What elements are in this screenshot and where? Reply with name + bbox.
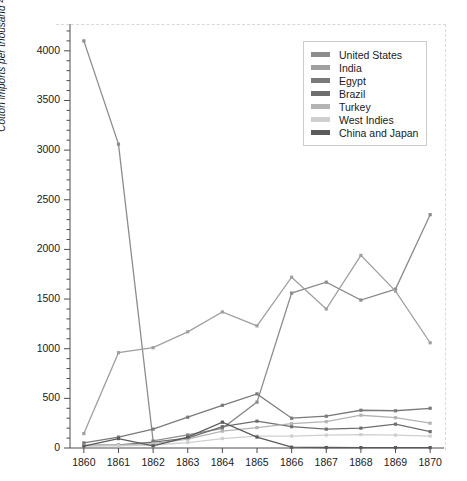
- legend-label: India: [339, 62, 362, 74]
- data-point: [117, 444, 120, 447]
- data-point: [325, 433, 328, 436]
- series-line: [84, 255, 430, 433]
- legend-swatch-icon: [311, 104, 330, 109]
- data-point: [152, 428, 155, 431]
- data-point: [290, 417, 293, 420]
- data-point: [429, 446, 432, 449]
- data-point: [82, 445, 85, 448]
- data-point: [325, 420, 328, 423]
- data-point: [325, 307, 328, 310]
- data-point: [152, 346, 155, 349]
- legend-entry: United States: [311, 48, 418, 61]
- chart-figure: Cotton imports per thousand 400-pound ba…: [0, 0, 467, 481]
- data-point: [394, 446, 397, 449]
- legend-swatch-icon: [311, 130, 330, 135]
- data-point: [429, 213, 432, 216]
- data-point: [394, 290, 397, 293]
- data-point: [117, 143, 120, 146]
- data-point: [255, 426, 258, 429]
- data-point: [82, 432, 85, 435]
- y-tick-label: 1000: [14, 342, 60, 354]
- y-tick-label: 4000: [14, 44, 60, 56]
- data-point: [221, 404, 224, 407]
- legend-label: Brazil: [339, 88, 365, 100]
- data-point: [290, 276, 293, 279]
- data-point: [221, 437, 224, 440]
- data-point: [117, 437, 120, 440]
- legend-entry: West Indies: [311, 113, 418, 126]
- data-point: [186, 441, 189, 444]
- data-point: [429, 341, 432, 344]
- data-point: [359, 254, 362, 257]
- data-point: [221, 425, 224, 428]
- legend-swatch-icon: [311, 52, 330, 57]
- data-point: [152, 444, 155, 447]
- y-tick-label: 0: [14, 441, 60, 453]
- data-point: [290, 425, 293, 428]
- data-point: [186, 416, 189, 419]
- legend-label: China and Japan: [339, 127, 418, 139]
- legend-entry: Egypt: [311, 74, 418, 87]
- data-point: [394, 433, 397, 436]
- data-point: [255, 401, 258, 404]
- data-point: [255, 435, 258, 438]
- y-axis-label: Cotton imports per thousand 400-pound ba…: [0, 0, 7, 140]
- legend-entry: Turkey: [311, 100, 418, 113]
- data-point: [325, 428, 328, 431]
- legend-entry: Brazil: [311, 87, 418, 100]
- legend-swatch-icon: [311, 117, 330, 122]
- data-point: [290, 292, 293, 295]
- chart-legend: United StatesIndiaEgyptBrazilTurkeyWest …: [303, 41, 427, 146]
- x-tick-label: 1870: [405, 456, 455, 468]
- data-point: [429, 422, 432, 425]
- y-tick-label: 2500: [14, 193, 60, 205]
- legend-entry: India: [311, 61, 418, 74]
- legend-swatch-icon: [311, 91, 330, 96]
- data-point: [394, 423, 397, 426]
- data-point: [359, 414, 362, 417]
- data-point: [221, 421, 224, 424]
- data-point: [255, 392, 258, 395]
- data-point: [325, 281, 328, 284]
- data-point: [186, 330, 189, 333]
- data-point: [255, 324, 258, 327]
- legend-entry: China and Japan: [311, 126, 418, 139]
- data-point: [359, 409, 362, 412]
- data-point: [290, 434, 293, 437]
- data-point: [117, 351, 120, 354]
- data-point: [429, 430, 432, 433]
- y-tick-label: 3500: [14, 93, 60, 105]
- data-point: [82, 39, 85, 42]
- legend-swatch-icon: [311, 65, 330, 70]
- data-point: [290, 422, 293, 425]
- data-point: [290, 446, 293, 449]
- data-point: [325, 446, 328, 449]
- data-point: [221, 430, 224, 433]
- y-tick-label: 500: [14, 391, 60, 403]
- legend-label: United States: [339, 49, 402, 61]
- legend-label: Turkey: [339, 101, 371, 113]
- legend-swatch-icon: [311, 78, 330, 83]
- data-point: [394, 416, 397, 419]
- data-point: [429, 407, 432, 410]
- data-point: [186, 435, 189, 438]
- y-tick-label: 2000: [14, 242, 60, 254]
- y-tick-label: 3000: [14, 143, 60, 155]
- data-point: [359, 446, 362, 449]
- data-point: [359, 433, 362, 436]
- data-point: [325, 415, 328, 418]
- series-6: [82, 433, 431, 448]
- data-point: [429, 434, 432, 437]
- y-tick-label: 1500: [14, 292, 60, 304]
- legend-label: West Indies: [339, 114, 394, 126]
- legend-label: Egypt: [339, 75, 366, 87]
- data-point: [255, 420, 258, 423]
- data-point: [394, 409, 397, 412]
- data-point: [221, 310, 224, 313]
- data-point: [359, 427, 362, 430]
- data-point: [359, 298, 362, 301]
